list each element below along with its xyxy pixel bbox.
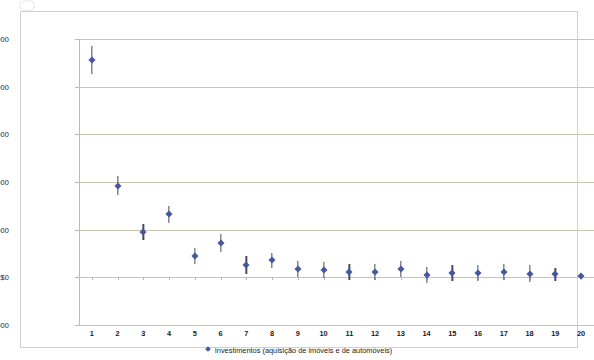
diamond-marker-icon (475, 269, 482, 276)
x-axis-tick (221, 277, 222, 280)
legend-label: Investimentos (aquisição de imóveis e de… (215, 346, 392, 355)
x-axis-label: 19 (551, 329, 559, 338)
y-axis-tick (75, 230, 79, 231)
diamond-marker-icon (243, 261, 250, 268)
x-axis-tick (118, 277, 119, 280)
gridline (79, 134, 594, 135)
x-axis-label: 5 (193, 329, 197, 338)
x-axis-label: 15 (448, 329, 456, 338)
x-axis-tick (298, 277, 299, 280)
x-axis-tick (246, 277, 247, 280)
gridline (79, 230, 594, 231)
x-axis-label: 3 (141, 329, 145, 338)
x-axis-tick (272, 277, 273, 280)
diamond-marker-icon (191, 252, 198, 259)
y-axis-label: R$0 (0, 273, 9, 282)
diamond-marker-icon (346, 269, 353, 276)
y-axis-label: R$50.000 (0, 35, 9, 44)
diamond-marker-icon (88, 56, 95, 63)
scan-artifact (19, 0, 35, 11)
x-axis-label: 9 (296, 329, 300, 338)
gridline (79, 87, 594, 88)
diamond-marker-icon (372, 268, 379, 275)
y-axis-label: -R$10.000 (0, 321, 9, 330)
diamond-marker-icon (397, 266, 404, 273)
diamond-marker-icon (449, 269, 456, 276)
x-axis-label: 12 (371, 329, 379, 338)
y-axis-tick (75, 39, 79, 40)
chart-legend: Investimentos (aquisição de imóveis e de… (21, 345, 577, 355)
x-axis-tick (401, 277, 402, 280)
diamond-marker-icon (320, 266, 327, 273)
x-axis-label: 16 (474, 329, 482, 338)
plot-area: R$50.000R$40.000R$30.000R$20.000R$10.000… (79, 39, 594, 325)
y-axis-label: R$10.000 (0, 225, 9, 234)
x-axis-label: 18 (526, 329, 534, 338)
x-axis-label: 1 (90, 329, 94, 338)
y-axis-label: R$20.000 (0, 178, 9, 187)
diamond-marker-icon (114, 182, 121, 189)
x-axis-label: 10 (320, 329, 328, 338)
y-axis-label: R$30.000 (0, 130, 9, 139)
diamond-marker-icon (205, 346, 211, 352)
gridline (79, 182, 594, 183)
x-axis-tick (195, 277, 196, 280)
x-axis-label: 4 (167, 329, 171, 338)
gridline (79, 277, 594, 278)
x-axis-label: 6 (219, 329, 223, 338)
gridline (79, 39, 594, 40)
chart-frame: R$50.000R$40.000R$30.000R$20.000R$10.000… (20, 11, 578, 348)
y-axis-tick (75, 325, 79, 326)
diamond-marker-icon (294, 265, 301, 272)
x-axis-label: 7 (244, 329, 248, 338)
diamond-marker-icon (217, 239, 224, 246)
x-axis-label: 8 (270, 329, 274, 338)
x-axis-tick (169, 277, 170, 280)
gridline (79, 325, 594, 326)
y-axis-label: R$40.000 (0, 82, 9, 91)
diamond-marker-icon (526, 270, 533, 277)
diamond-marker-icon (500, 269, 507, 276)
x-axis-label: 17 (500, 329, 508, 338)
y-axis-tick (75, 134, 79, 135)
y-axis-tick (75, 182, 79, 183)
y-axis-tick (75, 87, 79, 88)
x-axis-label: 13 (397, 329, 405, 338)
x-axis-label: 20 (577, 329, 585, 338)
y-axis-tick (75, 277, 79, 278)
x-axis-tick (143, 277, 144, 280)
diamond-marker-icon (578, 273, 585, 280)
x-axis-label: 11 (345, 329, 353, 338)
x-axis-label: 14 (423, 329, 431, 338)
diamond-marker-icon (166, 211, 173, 218)
x-axis-tick (92, 277, 93, 280)
diamond-marker-icon (269, 257, 276, 264)
x-axis-label: 2 (116, 329, 120, 338)
